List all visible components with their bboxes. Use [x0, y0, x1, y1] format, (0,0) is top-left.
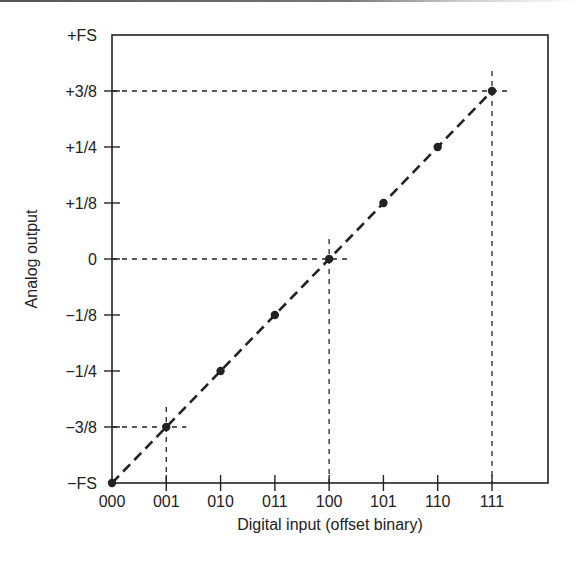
- x-tick-label: 001: [153, 493, 180, 510]
- x-axis-title: Digital input (offset binary): [237, 516, 423, 533]
- data-series: [108, 87, 496, 487]
- y-tick-label: +FS: [67, 27, 97, 44]
- x-tick-label: 111: [480, 493, 504, 510]
- data-point-marker: [434, 143, 442, 151]
- y-tick-label: +1/8: [65, 195, 97, 212]
- y-axis-title: Analog output: [23, 209, 40, 308]
- y-tick-label: −3/8: [65, 419, 97, 436]
- y-tick-label: +3/8: [65, 83, 97, 100]
- data-point-marker: [325, 255, 333, 263]
- x-axis-ticks: 000001010011100101110111: [99, 475, 505, 510]
- x-tick-label: 101: [370, 493, 397, 510]
- data-point-marker: [162, 423, 170, 431]
- x-tick-label: 100: [316, 493, 343, 510]
- dac-transfer-chart: −FS−3/8−1/4−1/80+1/8+1/4+3/8+FS 00000101…: [0, 0, 579, 572]
- y-tick-label: +1/4: [65, 139, 97, 156]
- data-point-marker: [379, 199, 387, 207]
- data-point-marker: [216, 367, 224, 375]
- x-tick-label: 000: [99, 493, 126, 510]
- x-tick-label: 110: [425, 493, 451, 510]
- y-tick-label: −1/4: [65, 363, 97, 380]
- data-point-marker: [488, 87, 496, 95]
- x-tick-label: 010: [207, 493, 234, 510]
- x-tick-label: 011: [262, 493, 288, 510]
- y-tick-label: −FS: [67, 475, 97, 492]
- data-point-marker: [271, 311, 279, 319]
- data-point-marker: [108, 479, 116, 487]
- y-tick-label: −1/8: [65, 307, 97, 324]
- y-tick-label: 0: [88, 251, 97, 268]
